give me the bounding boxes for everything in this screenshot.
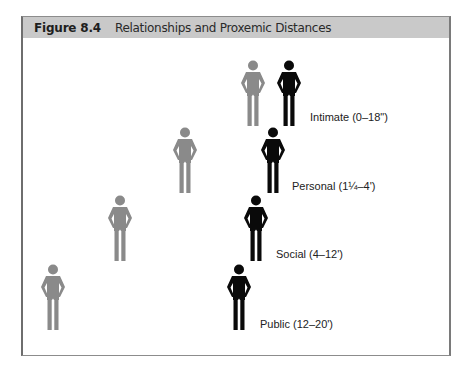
person-gray-icon	[40, 264, 66, 330]
person-black-icon	[243, 195, 269, 261]
person-gray-icon	[172, 127, 198, 193]
person-gray-icon	[240, 60, 266, 126]
zone-label-personal: Personal (1¼–4')	[292, 180, 375, 192]
person-gray-icon	[107, 195, 133, 261]
proxemics-illustration: Intimate (0–18") Personal (1¼–4') Social…	[0, 0, 476, 377]
person-black-icon	[226, 264, 252, 330]
zone-label-intimate: Intimate (0–18")	[310, 111, 388, 123]
person-black-icon	[260, 127, 286, 193]
zone-label-social: Social (4–12')	[276, 248, 343, 260]
zone-label-public: Public (12–20')	[260, 318, 333, 330]
person-black-icon	[276, 60, 302, 126]
